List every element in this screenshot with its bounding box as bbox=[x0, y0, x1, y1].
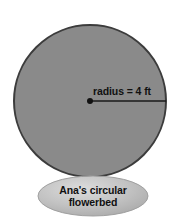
figure-stage: radius = 4 ft Ana's circular flowerbed bbox=[0, 0, 180, 224]
circular-flowerbed-figure: radius = 4 ft Ana's circular flowerbed bbox=[0, 0, 180, 224]
caption-line-1: Ana's circular bbox=[59, 184, 127, 196]
center-point-dot bbox=[87, 98, 93, 104]
caption-line-2: flowerbed bbox=[69, 196, 118, 208]
radius-label: radius = 4 ft bbox=[93, 85, 152, 97]
